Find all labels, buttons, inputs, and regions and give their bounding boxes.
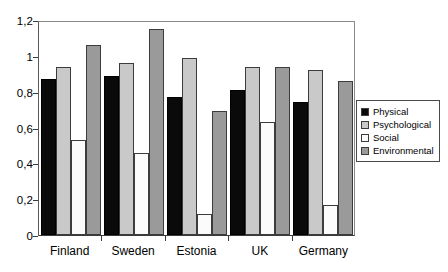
legend-swatch-physical-icon [361,108,369,116]
legend-swatch-psychological-icon [361,121,369,129]
y-axis-tick-label: 1,2 [17,15,33,27]
x-axis-tick-mark [292,236,293,241]
bar-environmental-uk [275,67,290,235]
bar-physical-germany [293,102,308,235]
y-axis-tick-label: 0,8 [17,87,33,99]
y-axis-tick-label: 0,2 [17,194,33,206]
bar-group-finland [39,22,102,235]
bar-environmental-germany [338,81,353,235]
bar-psychological-estonia [182,58,197,235]
bar-groups [39,22,354,235]
x-axis-labels: FinlandSwedenEstoniaUKGermany [38,244,355,258]
bar-psychological-germany [308,70,323,235]
bar-chart: 00,20,40,60,811,2 FinlandSwedenEstoniaUK… [0,0,448,272]
legend-swatch-environmental-icon [361,147,369,155]
legend-item-psychological: Psychological [361,118,434,131]
y-axis: 00,20,40,60,811,2 [0,21,33,236]
bar-group-sweden [102,22,165,235]
legend-item-environmental: Environmental [361,144,434,157]
x-axis-label-sweden: Sweden [101,244,164,258]
bar-group-germany [291,22,354,235]
bar-environmental-sweden [149,29,164,235]
legend-label: Psychological [373,120,431,130]
legend-label: Social [373,133,399,143]
x-axis-tick-mark [228,236,229,241]
bar-social-germany [323,205,338,235]
bar-group-estonia [165,22,228,235]
bar-social-finland [71,140,86,235]
bar-group-uk [228,22,291,235]
x-axis-label-estonia: Estonia [165,244,228,258]
legend-label: Physical [373,107,408,117]
plot-area [38,21,355,236]
x-axis-tick-mark [101,236,102,241]
bar-psychological-sweden [119,63,134,235]
bar-physical-estonia [167,97,182,235]
bar-environmental-finland [86,45,101,235]
y-axis-tick-label: 0,4 [17,158,33,170]
x-axis-label-uk: UK [228,244,291,258]
bar-physical-sweden [104,76,119,235]
bar-social-sweden [134,153,149,235]
x-axis-tick-mark [165,236,166,241]
bar-social-estonia [197,214,212,236]
x-axis-ticks [38,236,355,242]
legend-swatch-social-icon [361,134,369,142]
legend: PhysicalPsychologicalSocialEnvironmental [356,100,440,162]
legend-label: Environmental [373,146,434,156]
bar-physical-finland [41,79,56,235]
y-axis-tick-label: 0,6 [17,123,33,135]
bar-environmental-estonia [212,111,227,235]
legend-item-physical: Physical [361,105,434,118]
bar-psychological-finland [56,67,71,235]
x-axis-label-germany: Germany [292,244,355,258]
bar-social-uk [260,122,275,235]
bar-physical-uk [230,90,245,235]
bar-psychological-uk [245,67,260,235]
x-axis-label-finland: Finland [38,244,101,258]
legend-item-social: Social [361,131,434,144]
